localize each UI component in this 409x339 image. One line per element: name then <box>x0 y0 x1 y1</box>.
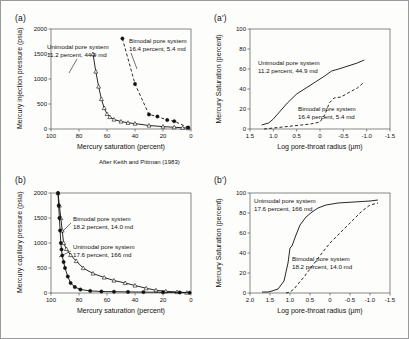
data-point-marker <box>66 275 69 278</box>
annotation-line: Unimodal pore system <box>73 243 135 251</box>
x-tick-label: 60 <box>93 133 121 139</box>
series-annotation-panel-b-prime-1: Bimodal pore system18.2 percent, 14.0 md <box>292 255 352 272</box>
data-point-marker <box>91 272 95 276</box>
data-point-marker <box>112 290 115 293</box>
annotation-line: 17.6 percent, 166 md <box>73 251 135 259</box>
annotation-line: 18.2 percent, 14.0 md <box>292 263 352 271</box>
annotation-line: Bimodal pore system <box>298 105 356 113</box>
figure-credit: After Keith and Pittman (1983) <box>99 159 180 165</box>
data-point-marker <box>59 241 62 244</box>
x-axis-title-panel-b: Mercury saturation (percent) <box>51 307 191 314</box>
data-point-marker <box>79 288 82 291</box>
data-point-marker <box>89 289 92 292</box>
series-annotation-panel-a-prime-1: Bimodal pore system16.4 percent, 5.4 md <box>298 105 356 122</box>
annotation-line: Unimodal pore system <box>254 197 316 205</box>
chart-panel-panel-b: (b)1008060402000500100015002000Mercury s… <box>7 171 203 335</box>
annotation-line: Bimodal pore system <box>292 255 352 263</box>
series-annotation-panel-a-1: Bimodal pore system16.4 percent, 5.4 md <box>129 37 187 54</box>
x-tick-label: 100 <box>37 133 65 139</box>
series-annotation-panel-a-0: Unimodal pore system11.2 percent, 44.9 m… <box>47 43 109 60</box>
data-point-marker <box>102 106 106 110</box>
annotation-line: 16.4 percent, 5.4 md <box>298 113 356 121</box>
annotation-line: Unimodal pore system <box>47 43 109 51</box>
x-axis-title-panel-a-prime: Log pore-throat radius (µm) <box>250 143 390 150</box>
data-point-marker <box>63 266 66 269</box>
data-point-marker <box>62 260 65 263</box>
x-tick-label: 80 <box>65 133 93 139</box>
annotation-line: 16.4 percent, 5.4 md <box>129 45 187 53</box>
data-point-marker <box>99 97 103 101</box>
data-point-marker <box>142 290 145 293</box>
x-axis-title-panel-a: Mercury saturation (percent) <box>51 143 191 150</box>
annotation-line: 18.2 percent, 14.0 md <box>73 223 133 231</box>
annotation-line: 11.2 percent, 44.9 md <box>47 51 109 59</box>
x-axis-title-panel-b-prime: Log pore-throat radius (µm) <box>250 307 390 314</box>
chart-panel-panel-a-prime: (a')1.51.00.50-0.5-1.0-1.5020406080100Lo… <box>206 7 404 169</box>
series-line-panel-b-prime-0 <box>262 200 378 292</box>
annotation-leader-line <box>69 59 77 73</box>
data-point-marker <box>100 290 103 293</box>
chart-panel-panel-b-prime: (b')2.01.51.00.50-0.5-1.0-1.502040608010… <box>206 171 404 335</box>
series-annotation-panel-b-prime-0: Unimodal pore system17.6 percent, 166 md <box>254 197 316 214</box>
series-annotation-panel-b-1: Unimodal pore system17.6 percent, 166 md <box>73 243 135 260</box>
series-annotation-panel-a-prime-0: Unimodal pore system11.2 percent, 44.9 m… <box>258 59 320 76</box>
x-tick-label: 20 <box>149 133 177 139</box>
x-tick-label: -1.5 <box>376 297 404 303</box>
data-point-marker <box>166 118 169 121</box>
x-tick-label: 100 <box>37 297 65 303</box>
x-tick-label: 40 <box>121 133 149 139</box>
data-point-marker <box>94 70 98 74</box>
data-point-marker <box>161 291 164 294</box>
data-point-marker <box>112 118 116 122</box>
data-point-marker <box>64 247 68 251</box>
x-tick-label: 60 <box>93 297 121 303</box>
data-point-marker <box>97 85 101 89</box>
x-tick-label: -1.5 <box>376 133 404 139</box>
y-axis-title-panel-b: Mercury capillary pressure (psia) <box>16 193 23 293</box>
annotation-leader-line <box>63 223 71 231</box>
data-point-marker <box>57 204 60 207</box>
data-point-marker <box>156 115 159 118</box>
data-point-marker <box>58 216 61 219</box>
data-point-marker <box>188 291 191 294</box>
data-point-marker <box>187 126 190 129</box>
x-tick-label: 0 <box>177 297 205 303</box>
annotation-line: Bimodal pore system <box>73 215 133 223</box>
data-point-marker <box>105 112 109 116</box>
data-point-marker <box>58 229 61 232</box>
series-line-panel-b-prime-1 <box>286 203 378 293</box>
series-line-panel-a-0 <box>93 54 188 128</box>
series-annotation-panel-b-0: Bimodal pore system18.2 percent, 14.0 md <box>73 215 133 232</box>
data-point-marker <box>60 248 63 251</box>
y-axis-title-panel-b-prime: Mercury Saturation (percent) <box>215 193 222 293</box>
data-point-marker <box>126 290 129 293</box>
x-tick-label: 0 <box>177 133 205 139</box>
data-point-marker <box>121 37 124 40</box>
data-point-marker <box>69 281 72 284</box>
chart-panel-panel-a: (a)1008060402000500100015002000Mercury s… <box>7 7 203 169</box>
x-tick-label: 80 <box>65 297 93 303</box>
annotation-line: 11.2 percent, 44.9 md <box>258 67 320 75</box>
data-point-marker <box>173 120 176 123</box>
data-point-marker <box>147 113 150 116</box>
annotation-line: 17.6 percent, 166 md <box>254 205 316 213</box>
x-tick-label: 20 <box>149 297 177 303</box>
annotation-line: Unimodal pore system <box>258 59 320 67</box>
data-point-marker <box>56 191 59 194</box>
data-point-marker <box>73 285 76 288</box>
annotation-line: Bimodal pore system <box>129 37 187 45</box>
data-point-marker <box>133 82 136 85</box>
y-axis-title-panel-a-prime: Mercury Saturation (percent) <box>215 29 222 129</box>
x-tick-label: 40 <box>121 297 149 303</box>
data-point-marker <box>178 291 181 294</box>
figure-container: (a)1008060402000500100015002000Mercury s… <box>0 0 409 339</box>
annotation-leader-line <box>131 53 137 69</box>
y-axis-title-panel-a: Mercury injection pressure (psia) <box>16 29 23 129</box>
